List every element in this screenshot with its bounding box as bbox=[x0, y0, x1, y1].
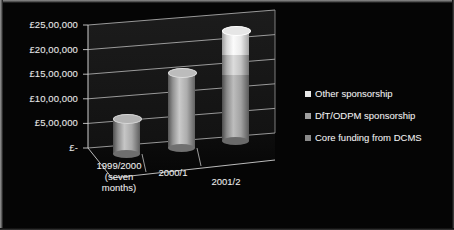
chart-screenshot: £25,00,000 £20,00,000 £15,00,000 £10,00,… bbox=[0, 0, 454, 230]
y-axis-ticks bbox=[83, 25, 88, 148]
bar-2000-1[interactable] bbox=[168, 72, 195, 148]
bar-cap-bottom bbox=[222, 137, 249, 145]
bar-1999-2000[interactable] bbox=[113, 118, 140, 154]
legend-item-label: Core funding from DCMS bbox=[315, 132, 422, 144]
bar-cap-top bbox=[113, 114, 142, 124]
y-tick-label: £10,00,000 bbox=[12, 94, 78, 104]
bar-cap-top bbox=[168, 68, 197, 78]
bar-segment-dft-odpm bbox=[222, 55, 249, 75]
bar-cap-bottom bbox=[113, 150, 140, 158]
bar-segment-other-sponsorship bbox=[222, 30, 249, 55]
bar-segment-core-funding bbox=[168, 72, 195, 148]
chart-legend: Other sponsorship DfT/ODPM sponsorship C… bbox=[305, 88, 450, 154]
y-tick-label: £- bbox=[12, 143, 78, 153]
bar-segment-core-funding bbox=[113, 118, 140, 154]
legend-item-label: Other sponsorship bbox=[315, 88, 393, 100]
legend-item-label: DfT/ODPM sponsorship bbox=[315, 110, 415, 122]
legend-item-dft-odpm-sponsorship[interactable]: DfT/ODPM sponsorship bbox=[305, 110, 450, 122]
legend-item-core-funding-dcms[interactable]: Core funding from DCMS bbox=[305, 132, 450, 144]
y-tick-label: £25,00,000 bbox=[12, 20, 78, 30]
chart-plot-area: £25,00,000 £20,00,000 £15,00,000 £10,00,… bbox=[0, 0, 454, 230]
legend-swatch-icon bbox=[305, 135, 311, 141]
legend-swatch-icon bbox=[305, 113, 311, 119]
legend-item-other-sponsorship[interactable]: Other sponsorship bbox=[305, 88, 450, 100]
bar-cap-top bbox=[222, 26, 251, 36]
bar-segment-core-funding bbox=[222, 75, 249, 141]
legend-swatch-icon bbox=[305, 91, 311, 97]
y-tick-label: £5,00,000 bbox=[12, 118, 78, 128]
bar-2001-2[interactable] bbox=[222, 36, 249, 141]
y-axis-labels: £25,00,000 £20,00,000 £15,00,000 £10,00,… bbox=[8, 0, 78, 230]
x-tick-label-2001-2: 2001/2 bbox=[203, 176, 249, 187]
x-tick-label-1999-2000: 1999/2000 (seven months) bbox=[86, 160, 152, 193]
y-tick-label: £20,00,000 bbox=[12, 45, 78, 55]
x-tick-label-2000-1: 2000/1 bbox=[150, 167, 196, 178]
bar-cap-bottom bbox=[168, 144, 195, 152]
y-tick-label: £15,00,000 bbox=[12, 69, 78, 79]
